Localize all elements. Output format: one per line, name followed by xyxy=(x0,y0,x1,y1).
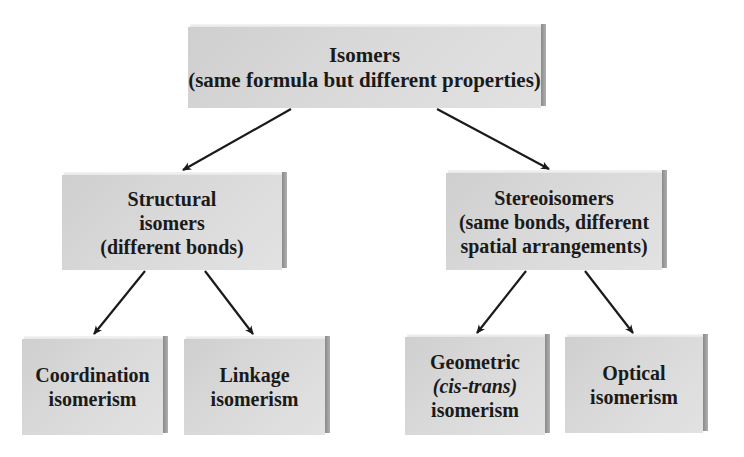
node-stereoisomers: Stereoisomers (same bonds, different spa… xyxy=(446,173,662,270)
arrow-stereo-to-optical xyxy=(585,271,633,333)
node-linkage-line-2: isomerism xyxy=(211,387,299,411)
node-geometric-line-3: isomerism xyxy=(431,398,519,422)
node-structural-line-1: Structural xyxy=(128,187,217,211)
arrow-isomers-to-structural xyxy=(183,109,291,170)
node-optical-line-1: Optical xyxy=(602,361,665,385)
node-linkage-line-1: Linkage xyxy=(219,363,289,387)
node-isomers-title: Isomers xyxy=(329,43,400,68)
node-optical-line-2: isomerism xyxy=(590,385,678,409)
node-structural-line-2: isomers xyxy=(139,211,205,235)
node-linkage-isomerism: Linkage isomerism xyxy=(184,339,325,435)
node-coordination-isomerism: Coordination isomerism xyxy=(22,339,163,435)
arrow-stereo-to-geometric xyxy=(477,271,526,333)
node-isomers: Isomers (same formula but different prop… xyxy=(188,27,541,108)
node-stereo-line-3: spatial arrangements) xyxy=(460,234,647,258)
arrow-structural-to-coordination xyxy=(94,271,145,334)
node-stereo-line-2: (same bonds, different xyxy=(459,210,649,234)
node-structural-line-3: (different bonds) xyxy=(100,235,244,259)
arrow-structural-to-linkage xyxy=(205,271,253,334)
node-coordination-line-2: isomerism xyxy=(49,387,137,411)
node-geometric-line-1: Geometric xyxy=(430,350,520,374)
node-geometric-line-2: (cis-trans) xyxy=(433,374,517,398)
node-coordination-line-1: Coordination xyxy=(35,363,149,387)
node-optical-isomerism: Optical isomerism xyxy=(565,337,703,433)
arrow-isomers-to-stereo xyxy=(437,109,549,169)
node-structural-isomers: Structural isomers (different bonds) xyxy=(62,175,282,270)
node-isomers-subtitle: (same formula but different properties) xyxy=(188,68,541,93)
node-geometric-isomerism: Geometric (cis-trans) isomerism xyxy=(405,337,545,435)
node-stereo-line-1: Stereoisomers xyxy=(494,186,614,210)
